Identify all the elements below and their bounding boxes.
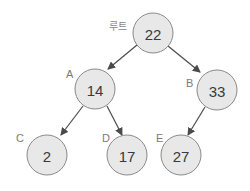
node-value: 14 (87, 82, 104, 99)
node-a: A 14 (66, 68, 115, 109)
node-value: 22 (145, 26, 162, 43)
node-value: 2 (43, 148, 51, 165)
node-label: A (66, 68, 74, 80)
node-label: D (102, 132, 110, 144)
node-b: B 33 (186, 70, 237, 110)
node-value: 17 (119, 148, 136, 165)
node-value: 27 (173, 148, 190, 165)
node-c: C 2 (16, 132, 67, 175)
root-label: 루트 (109, 21, 127, 32)
edge-root-to-b (168, 46, 200, 72)
edge-a-to-c (61, 106, 83, 135)
node-d: D 17 (102, 132, 147, 175)
node-label: B (186, 77, 193, 89)
node-label: C (16, 132, 24, 144)
node-root: 루트 22 (109, 13, 173, 53)
node-e: E 27 (156, 132, 201, 175)
tree-diagram: 루트 22 A 14 B 33 C 2 D 17 E 27 (0, 0, 250, 191)
node-label: E (156, 132, 163, 144)
edge-a-to-d (107, 106, 122, 135)
edge-b-to-e (188, 107, 205, 135)
node-value: 33 (209, 83, 226, 100)
edge-root-to-a (108, 45, 137, 69)
